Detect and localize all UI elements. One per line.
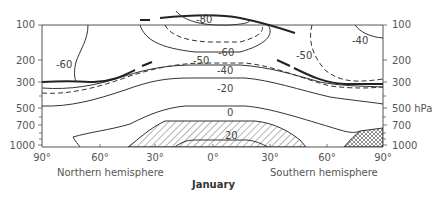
hatched-region bbox=[128, 121, 306, 147]
y-tick-labels-right: 100 200 300 500 hPa 700 1000 bbox=[392, 19, 432, 151]
label-c50a: -50 bbox=[193, 55, 209, 66]
svg-text:60°: 60° bbox=[318, 152, 336, 163]
label-c20p: 20 bbox=[225, 130, 238, 141]
svg-text:300: 300 bbox=[392, 77, 411, 88]
x-tick-labels: 90° 60° 30° 0° 30° 60° 90° bbox=[33, 152, 392, 163]
label-c40b: -40 bbox=[352, 35, 368, 46]
svg-text:300: 300 bbox=[16, 77, 35, 88]
svg-text:500: 500 bbox=[16, 103, 35, 114]
chart-title: January bbox=[192, 179, 235, 190]
northern-hemisphere-label: Northern hemisphere bbox=[57, 167, 164, 178]
label-c20: -20 bbox=[217, 83, 233, 94]
svg-text:60°: 60° bbox=[91, 152, 109, 163]
svg-text:700: 700 bbox=[392, 120, 411, 131]
label-c40a: -40 bbox=[217, 65, 233, 76]
svg-text:30°: 30° bbox=[146, 152, 164, 163]
label-c0: 0 bbox=[227, 107, 233, 118]
crosshatch-region bbox=[344, 128, 383, 147]
svg-text:1000: 1000 bbox=[392, 140, 417, 151]
label-c80: -80 bbox=[196, 14, 212, 25]
label-c50b: -50 bbox=[296, 50, 312, 61]
svg-text:200: 200 bbox=[16, 55, 35, 66]
svg-text:500 hPa: 500 hPa bbox=[392, 103, 432, 114]
svg-text:100: 100 bbox=[392, 19, 411, 30]
y-tick-labels-left: 100 200 300 500 700 1000 bbox=[10, 19, 35, 151]
svg-text:90°: 90° bbox=[374, 152, 392, 163]
svg-text:0°: 0° bbox=[207, 152, 218, 163]
svg-text:1000: 1000 bbox=[10, 140, 35, 151]
svg-text:100: 100 bbox=[16, 19, 35, 30]
label-n60: -60 bbox=[56, 59, 72, 70]
svg-text:700: 700 bbox=[16, 120, 35, 131]
svg-text:90°: 90° bbox=[33, 152, 51, 163]
southern-hemisphere-label: Southern hemisphere bbox=[270, 167, 378, 178]
label-c60: -60 bbox=[218, 47, 234, 58]
svg-text:200: 200 bbox=[392, 55, 411, 66]
svg-text:30°: 30° bbox=[261, 152, 279, 163]
